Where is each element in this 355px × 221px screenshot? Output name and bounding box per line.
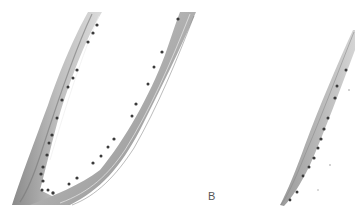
narrow-tissue-strip xyxy=(280,30,355,206)
u-shaped-tissue xyxy=(12,12,196,205)
tissue-image xyxy=(0,0,355,221)
micrograph-figure: B xyxy=(0,0,355,221)
panel-label: B xyxy=(208,190,215,202)
